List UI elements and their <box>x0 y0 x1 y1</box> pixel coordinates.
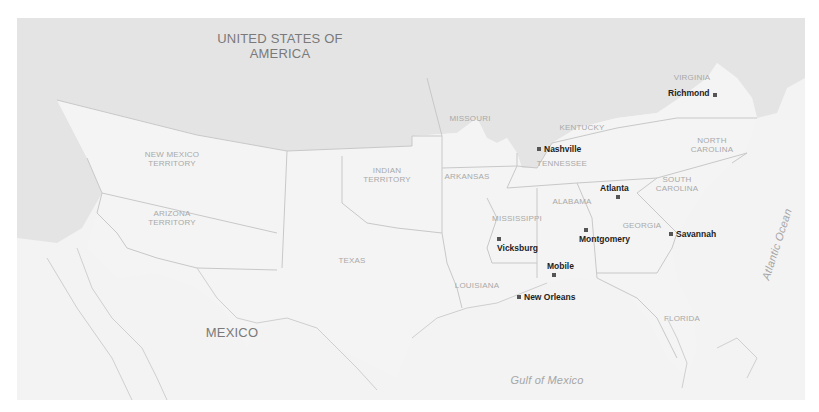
florida-label: FLORIDA <box>647 314 717 323</box>
city-marker-icon <box>584 228 588 232</box>
new-mexico-territory-label: NEW MEXICO TERRITORY <box>132 150 212 168</box>
city-marker-icon <box>497 237 501 241</box>
city-vicksburg[interactable]: Vicksburg <box>497 237 538 253</box>
region-label-line1: INDIAN <box>347 166 427 175</box>
louisiana-label: LOUISIANA <box>442 281 512 290</box>
city-nashville[interactable]: Nashville <box>537 144 581 154</box>
texas-label: TEXAS <box>317 256 387 265</box>
kentucky-label: KENTUCKY <box>542 123 622 132</box>
north-carolina-label: NORTH CAROLINA <box>672 136 752 154</box>
mexico-label: MEXICO <box>192 326 272 341</box>
city-name: Vicksburg <box>497 243 538 253</box>
arkansas-label: ARKANSAS <box>432 172 502 181</box>
region-label-line2: TERRITORY <box>132 159 212 168</box>
south-carolina-label: SOUTH CAROLINA <box>637 175 717 193</box>
missouri-label: MISSOURI <box>435 114 505 123</box>
tennessee-label: TENNESSEE <box>522 159 602 168</box>
city-name: New Orleans <box>524 292 576 302</box>
city-marker-icon <box>669 232 673 236</box>
city-name: Mobile <box>547 261 574 271</box>
region-label-line1: ARIZONA <box>132 209 212 218</box>
usa-label-line2: AMERICA <box>205 47 355 62</box>
city-name: Nashville <box>544 144 581 154</box>
city-richmond[interactable]: Richmond <box>668 88 717 98</box>
indian-territory-label: INDIAN TERRITORY <box>347 166 427 184</box>
city-montgomery[interactable]: Montgomery <box>579 228 630 244</box>
city-savannah[interactable]: Savannah <box>669 229 716 239</box>
region-label-line2: TERRITORY <box>132 218 212 227</box>
virginia-label: VIRGINIA <box>657 73 727 82</box>
region-label-line2: TERRITORY <box>347 175 427 184</box>
region-label-line2: CAROLINA <box>672 145 752 154</box>
city-marker-icon <box>616 195 620 199</box>
city-marker-icon <box>517 295 521 299</box>
region-label-line1: NORTH <box>672 136 752 145</box>
mississippi-label: MISSISSIPPI <box>477 214 557 223</box>
region-label-line2: CAROLINA <box>637 184 717 193</box>
city-mobile[interactable]: Mobile <box>547 261 574 277</box>
gulf-of-mexico-label: Gulf of Mexico <box>487 374 607 387</box>
region-label-line1: SOUTH <box>637 175 717 184</box>
usa-label-line1: UNITED STATES OF <box>205 32 355 47</box>
city-new-orleans[interactable]: New Orleans <box>517 292 576 302</box>
region-label-line1: NEW MEXICO <box>132 150 212 159</box>
usa-label: UNITED STATES OF AMERICA <box>205 32 355 62</box>
city-name: Atlanta <box>600 183 629 193</box>
city-name: Montgomery <box>579 234 630 244</box>
alabama-label: ALABAMA <box>537 197 607 206</box>
city-marker-icon <box>552 273 556 277</box>
city-atlanta[interactable]: Atlanta <box>600 183 629 199</box>
city-name: Richmond <box>668 88 710 98</box>
map-frame: UNITED STATES OF AMERICA MEXICO Gulf of … <box>17 18 805 400</box>
city-marker-icon <box>537 147 541 151</box>
city-marker-icon <box>713 93 717 97</box>
city-name: Savannah <box>676 229 716 239</box>
arizona-territory-label: ARIZONA TERRITORY <box>132 209 212 227</box>
